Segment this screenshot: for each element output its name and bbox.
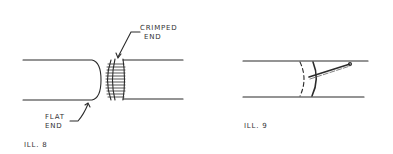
crimped-end-pipe	[106, 59, 183, 100]
crimped-leader	[118, 32, 140, 57]
flat-end-pipe	[23, 60, 101, 100]
crimped-end-label: CRIMPED END	[140, 24, 178, 42]
ill9-caption: ILL. 9	[244, 122, 268, 131]
joined-pipe	[243, 61, 368, 97]
ill8-caption: ILL. 8	[24, 141, 48, 150]
flat-end-label: FLAT END	[45, 113, 65, 131]
flat-leader	[70, 104, 88, 121]
